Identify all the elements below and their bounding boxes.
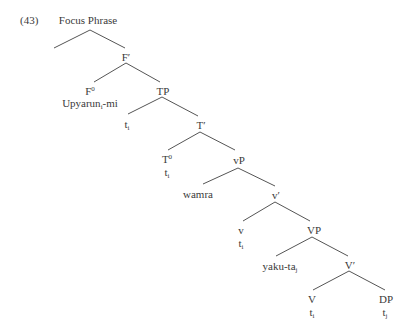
node-vp-spec-word: yaku-taj [263,260,298,272]
edge-fbar-tp [126,63,160,82]
node-v-big: V [308,293,316,305]
example-number: (43) [20,14,38,26]
edge-vp-spec [203,168,238,184]
edge-tbar-t0 [168,132,200,150]
node-focus-phrase: Focus Phrase [59,14,117,26]
node-v-trace: ti [238,237,243,249]
node-tp-spec-trace: ti [124,118,129,130]
node-f0: F0 [85,85,95,97]
node-vp-big: VP [307,224,321,236]
edge-tp-spec [128,97,162,114]
edge-fbar-f0 [94,63,126,82]
tree-edges [0,0,411,330]
edge-vbar-dp [349,271,385,290]
edge-tbar-vp [200,132,235,150]
edge-vbar-v2 [313,271,349,290]
node-t0-trace: ti [164,166,169,178]
edge-vp-spec2 [276,237,312,256]
edge-vbar-v [243,202,275,221]
node-dp-trace: tj [382,306,387,318]
edge-tp-tbar [162,97,198,116]
node-f0-word: Upyaruni-mi [62,97,118,109]
node-t-bar: T′ [196,119,205,131]
node-v-big-trace: ti [309,306,314,318]
node-v: v [238,224,244,236]
node-t0: T0 [162,153,172,165]
edge-vp-vbar2 [312,237,348,256]
edge-focus-left [54,30,90,48]
edge-vbar-vp [275,202,310,221]
node-dp: DP [379,293,393,305]
edge-vp-vbar [238,168,275,186]
node-f-bar: F′ [122,51,131,63]
edge-focus-fbar [90,30,125,48]
node-tp: TP [157,85,170,97]
node-vp-spec: wamra [183,188,213,200]
node-v-big-bar: V′ [345,259,355,271]
node-v-bar: v′ [272,189,280,201]
node-vp-little: vP [233,154,245,166]
